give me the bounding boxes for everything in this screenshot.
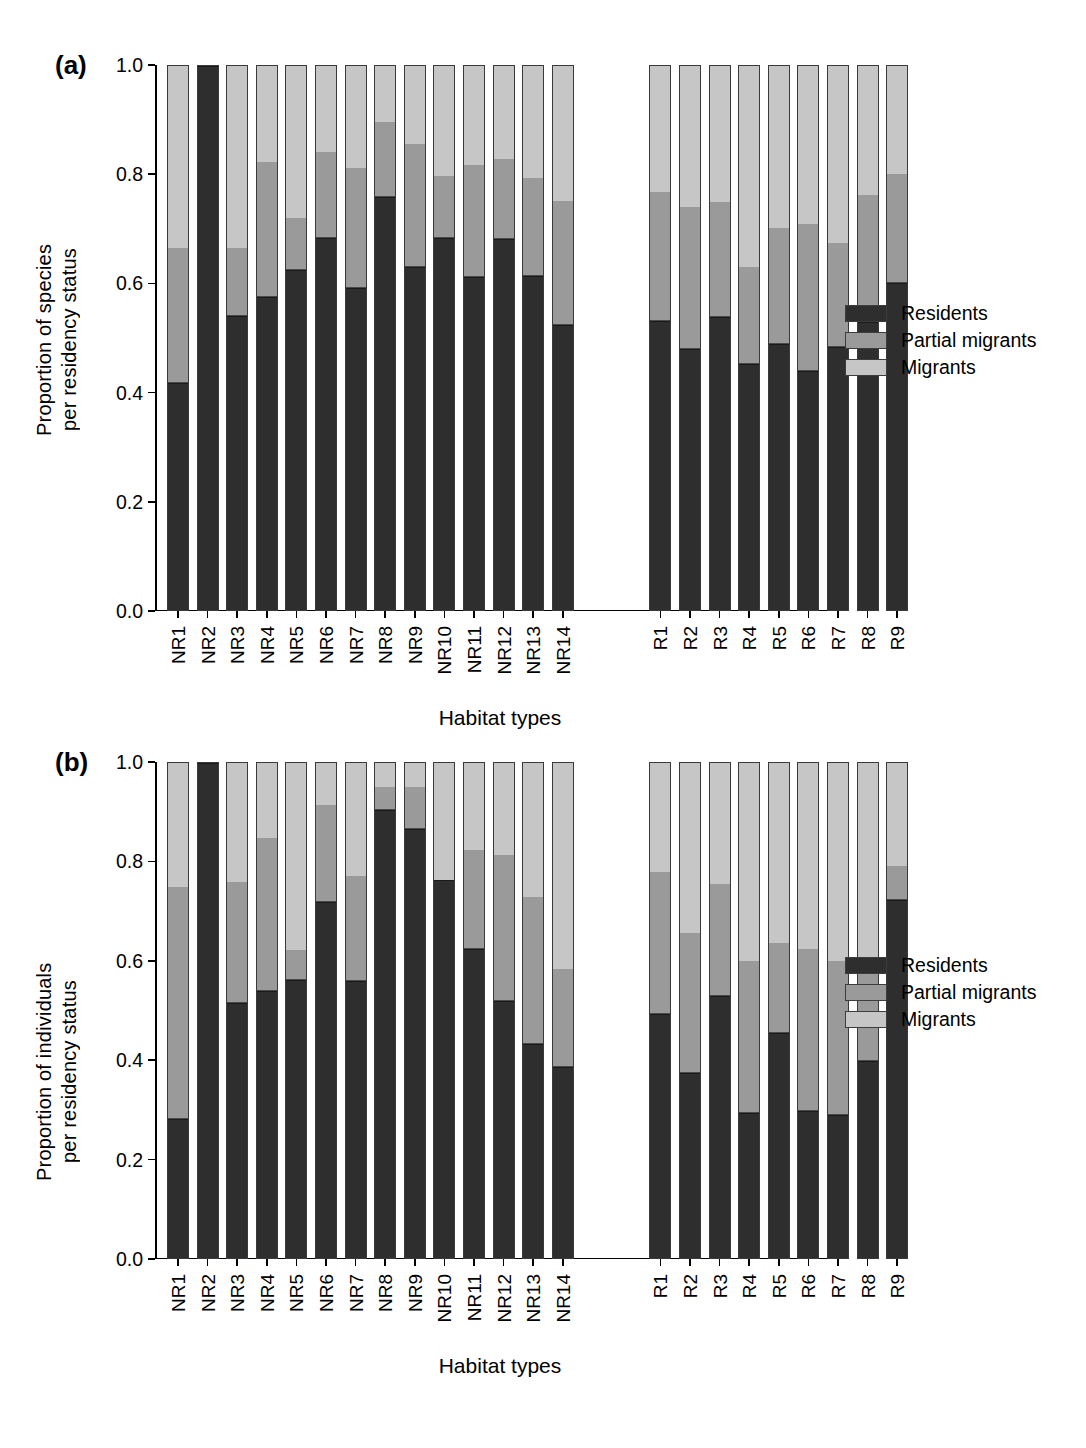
bar-segment-migrants [494, 66, 514, 158]
bar-segment-migrants [286, 66, 306, 218]
bar-segment-residents [316, 902, 336, 1258]
y-tick-mark [148, 610, 155, 612]
x-tick-label: R5 [769, 626, 791, 650]
bar-segment-residents [798, 371, 818, 610]
stacked-bar [493, 65, 515, 611]
bar-segment-migrants [227, 66, 247, 248]
bar-segment-residents [434, 238, 454, 610]
bar-segment-partial-migrants [887, 174, 907, 283]
x-tick-label: NR10 [434, 626, 456, 675]
x-tick-mark [837, 611, 839, 618]
y-tick-label: 0.6 [116, 949, 143, 972]
x-tick-mark [207, 611, 209, 618]
y-tick-mark [148, 392, 155, 394]
legend-entry: Migrants [845, 1006, 1036, 1033]
panel-b: (b) Proportion of individuals per reside… [0, 697, 1086, 1448]
bar-segment-migrants [405, 66, 425, 144]
y-tick-mark [148, 960, 155, 962]
bar-segment-residents [553, 325, 573, 610]
legend-swatch-residents [845, 305, 887, 322]
bar-segment-migrants [257, 763, 277, 838]
bar-segment-partial-migrants [710, 202, 730, 317]
x-tick-mark [867, 1259, 869, 1266]
stacked-bar [679, 762, 701, 1259]
legend-swatch-residents [845, 957, 887, 974]
x-tick-label: NR14 [553, 1274, 575, 1323]
bar-segment-residents [405, 829, 425, 1258]
x-tick-label: NR4 [257, 1274, 279, 1312]
x-tick-mark [384, 611, 386, 618]
bar-segment-migrants [828, 763, 848, 961]
x-tick-mark [414, 1259, 416, 1266]
y-tick-label: 0.6 [116, 272, 143, 295]
legend-entry: Partial migrants [845, 327, 1036, 354]
y-tick-mark [148, 173, 155, 175]
bar-segment-migrants [316, 763, 336, 805]
stacked-bar [167, 762, 189, 1259]
stacked-bar [404, 762, 426, 1259]
panel-a-plot-area: 0.00.20.40.60.81.0 [155, 65, 845, 611]
bar-segment-migrants [494, 763, 514, 855]
panel-b-bars [155, 762, 845, 1259]
bar-segment-residents [769, 344, 789, 610]
bar-segment-migrants [680, 66, 700, 207]
y-tick-label: 0.2 [116, 490, 143, 513]
bar-segment-residents [257, 297, 277, 610]
x-tick-mark [207, 1259, 209, 1266]
stacked-bar [649, 65, 671, 611]
x-tick-label: R9 [887, 1274, 909, 1298]
x-tick-mark [266, 611, 268, 618]
y-tick-mark [148, 861, 155, 863]
legend-entry: Migrants [845, 354, 1036, 381]
stacked-bar [463, 65, 485, 611]
y-tick-mark [148, 761, 155, 763]
bar-segment-residents [286, 980, 306, 1258]
x-tick-label: NR5 [286, 1274, 308, 1312]
legend-entry: Residents [845, 952, 1036, 979]
bar-segment-migrants [257, 66, 277, 162]
y-tick-label: 0.4 [116, 381, 143, 404]
x-tick-label: R8 [858, 1274, 880, 1298]
bar-segment-migrants [316, 66, 336, 152]
x-tick-label: NR14 [553, 626, 575, 675]
x-tick-mark [236, 611, 238, 618]
bar-segment-partial-migrants [168, 248, 188, 383]
x-tick-label: NR8 [375, 1274, 397, 1312]
stacked-bar [552, 762, 574, 1259]
bar-segment-partial-migrants [680, 933, 700, 1073]
bar-segment-residents [710, 996, 730, 1258]
bar-segment-residents [494, 1001, 514, 1258]
bar-segment-residents [316, 238, 336, 610]
bar-segment-residents [375, 810, 395, 1258]
stacked-bar [345, 762, 367, 1259]
x-tick-label: NR10 [434, 1274, 456, 1323]
bar-segment-partial-migrants [257, 838, 277, 991]
stacked-bar [797, 65, 819, 611]
legend-swatch-migrants [845, 1011, 887, 1028]
bar-segment-residents [198, 66, 218, 610]
x-tick-mark [748, 1259, 750, 1266]
x-tick-mark [177, 1259, 179, 1266]
bar-segment-residents [375, 197, 395, 610]
x-tick-label: NR8 [375, 626, 397, 664]
x-tick-label: NR13 [523, 1274, 545, 1323]
bar-segment-migrants [769, 763, 789, 943]
bar-segment-residents [168, 1119, 188, 1258]
bar-segment-partial-migrants [168, 887, 188, 1119]
stacked-bar [404, 65, 426, 611]
panel-a-x-tick-labels: NR1NR2NR3NR4NR5NR6NR7NR8NR9NR10NR11NR12N… [0, 626, 1086, 706]
x-tick-mark [808, 611, 810, 618]
y-tick-label: 0.0 [116, 1248, 143, 1271]
bar-segment-partial-migrants [494, 159, 514, 240]
stacked-bar [374, 762, 396, 1259]
bar-segment-migrants [464, 66, 484, 165]
x-tick-mark [177, 611, 179, 618]
stacked-bar [256, 762, 278, 1259]
bar-segment-migrants [710, 66, 730, 202]
stacked-bar [197, 762, 219, 1259]
bar-segment-migrants [375, 66, 395, 121]
bar-segment-partial-migrants [798, 949, 818, 1111]
x-tick-label: NR1 [168, 1274, 190, 1312]
stacked-bar [463, 762, 485, 1259]
x-tick-label: R2 [680, 626, 702, 650]
